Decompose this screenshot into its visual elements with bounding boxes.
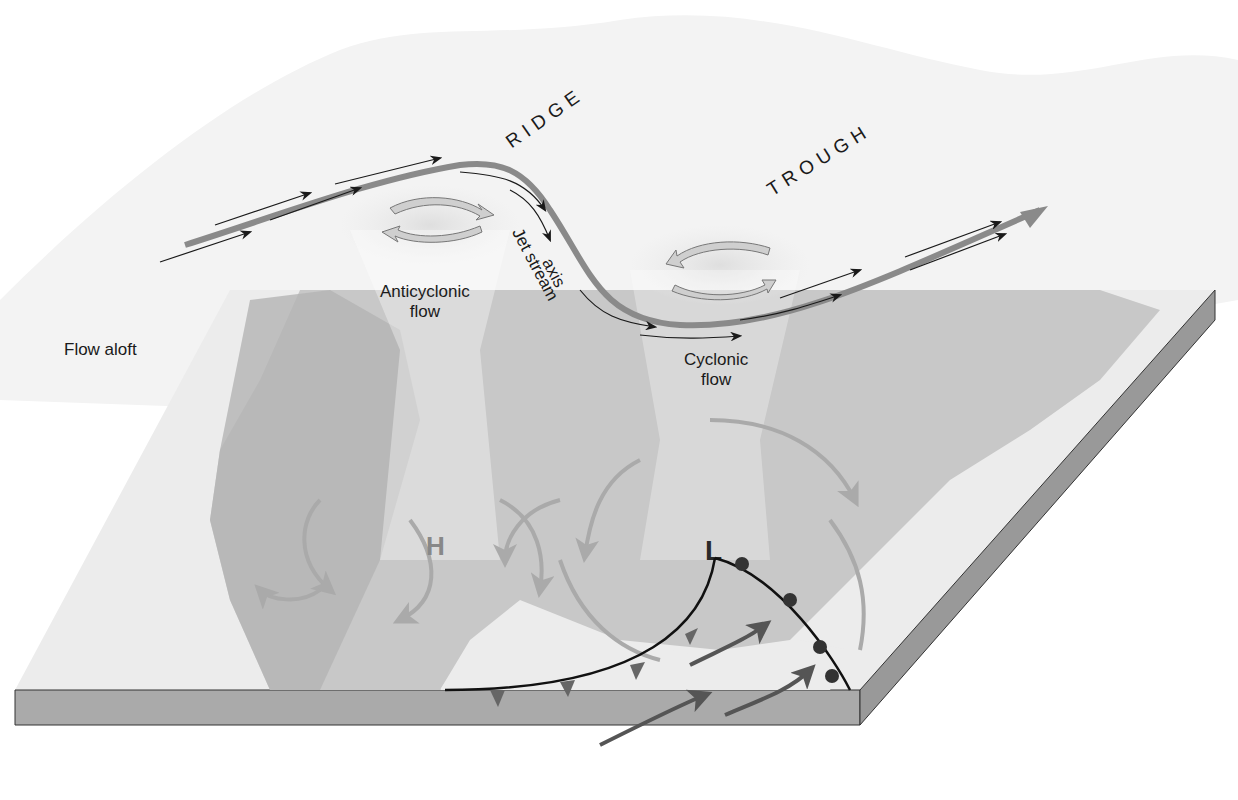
ground-slab [15, 290, 1215, 725]
weather-diagram: H L RIDGE TROUGH Jet stream axis Anticyc… [0, 0, 1238, 800]
cyclonic-flow-label: Cyclonic flow [684, 350, 748, 390]
anticyclonic-flow-label: Anticyclonic flow [380, 282, 470, 322]
anticyclonic-line1: Anticyclonic [380, 282, 470, 302]
high-pressure-label: H [426, 531, 445, 561]
cyclonic-line1: Cyclonic [684, 350, 748, 370]
flow-aloft-label: Flow aloft [64, 340, 137, 360]
anticyclonic-line2: flow [380, 302, 470, 322]
cyclonic-line2: flow [684, 370, 748, 390]
